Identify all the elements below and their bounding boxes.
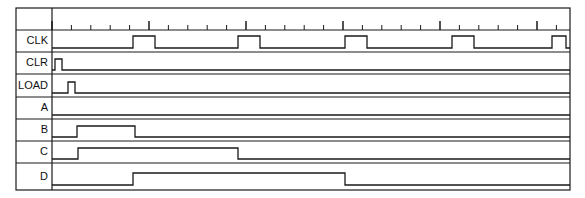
signal-label-a: A bbox=[41, 101, 49, 113]
signal-label-clk: CLK bbox=[27, 34, 49, 46]
timing-diagram-root: CLKCLRLOADABCD bbox=[0, 0, 585, 198]
signal-label-b: B bbox=[41, 123, 48, 135]
signal-label-load: LOAD bbox=[18, 79, 48, 91]
signal-label-d: D bbox=[40, 170, 48, 182]
signal-label-c: C bbox=[40, 145, 48, 157]
signal-label-clr: CLR bbox=[26, 56, 48, 68]
timing-diagram-canvas: CLKCLRLOADABCD bbox=[0, 0, 585, 198]
